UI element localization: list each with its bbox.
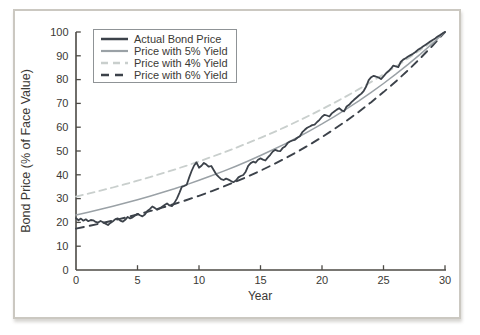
y-tick-label-70: 70 xyxy=(56,97,68,109)
legend-item-4pct: Price with 4% Yield xyxy=(100,57,236,69)
x-tick-label-10: 10 xyxy=(193,274,205,286)
x-tick-label-20: 20 xyxy=(316,274,328,286)
x-tick-label-15: 15 xyxy=(254,274,266,286)
y-tick-label-80: 80 xyxy=(56,73,68,85)
y-tick-label-90: 90 xyxy=(56,50,68,62)
legend-swatch-4pct-line-icon xyxy=(100,57,129,69)
x-tick-label-25: 25 xyxy=(377,274,389,286)
legend-label-actual: Actual Bond Price xyxy=(134,33,221,45)
x-tick-label-5: 5 xyxy=(134,274,140,286)
y-tick-label-50: 50 xyxy=(56,145,68,157)
y-tick-label-10: 10 xyxy=(56,240,68,252)
bond-price-figure: 0510152025300102030405060708090100 Year … xyxy=(0,0,480,335)
legend-item-5pct: Price with 5% Yield xyxy=(100,45,236,57)
x-axis-label: Year xyxy=(248,289,272,303)
legend-swatch-6pct-line-icon xyxy=(100,69,129,81)
x-tick-label-0: 0 xyxy=(73,274,79,286)
y-axis-label: Bond Price (% of Face Value) xyxy=(19,69,33,233)
legend: Actual Bond Price Price with 5% Yield Pr… xyxy=(93,29,237,83)
chart-svg: 0510152025300102030405060708090100 Year … xyxy=(0,0,480,335)
legend-swatch-actual-line-icon xyxy=(100,33,129,45)
legend-swatch-5pct-line-icon xyxy=(100,45,129,57)
y-tick-label-100: 100 xyxy=(50,26,68,38)
y-tick-label-30: 30 xyxy=(56,192,68,204)
legend-item-actual: Actual Bond Price xyxy=(100,33,236,45)
y-tick-label-40: 40 xyxy=(56,169,68,181)
legend-label-4pct: Price with 4% Yield xyxy=(134,57,228,69)
y-tick-label-0: 0 xyxy=(62,264,68,276)
y-tick-label-60: 60 xyxy=(56,121,68,133)
legend-label-5pct: Price with 5% Yield xyxy=(134,45,228,57)
x-tick-label-30: 30 xyxy=(439,274,451,286)
y-tick-label-20: 20 xyxy=(56,216,68,228)
legend-item-6pct: Price with 6% Yield xyxy=(100,69,236,81)
legend-label-6pct: Price with 6% Yield xyxy=(134,69,228,81)
